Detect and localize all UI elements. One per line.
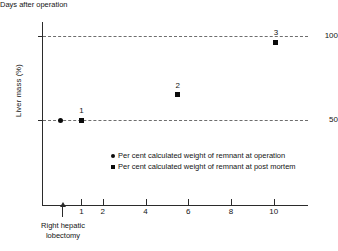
y-axis-title: Liver mass (%)	[14, 31, 23, 151]
operation-annotation: Right hepatic lobectomy	[18, 221, 108, 241]
y-tick-label-100: 100	[304, 31, 338, 40]
chart-legend: Per cent calculated weight of remnant at…	[108, 150, 296, 172]
data-point-label-1: 1	[71, 106, 91, 115]
legend-marker-square-icon	[108, 165, 118, 169]
operation-annotation-line1: Right hepatic	[18, 221, 108, 231]
x-tick-8	[231, 199, 232, 205]
data-point-label-3: 3	[266, 28, 286, 37]
data-point-1	[79, 118, 84, 123]
x-tick-label-2: 2	[91, 207, 115, 216]
x-tick-label-6: 6	[176, 207, 200, 216]
x-tick-10	[274, 199, 275, 205]
x-tick-label-10: 10	[262, 207, 286, 216]
data-point-label-2: 2	[168, 81, 188, 90]
legend-item-1: Per cent calculated weight of remnant at…	[108, 161, 296, 172]
x-tick-label-8: 8	[219, 207, 243, 216]
legend-label-1: Per cent calculated weight of remnant at…	[118, 162, 296, 171]
x-tick-1	[81, 199, 82, 205]
x-axis-line	[42, 205, 308, 206]
operation-annotation-line2: lobectomy	[18, 231, 108, 241]
x-axis-title: Days after operation	[0, 0, 140, 9]
data-point-2	[175, 92, 180, 97]
x-tick-4	[146, 199, 147, 205]
operation-arrow-icon	[62, 206, 63, 217]
liver-mass-chart: Liver mass (%) 50100 1246810 123 Right h…	[0, 0, 338, 251]
legend-swatch	[111, 154, 115, 158]
y-tick-label-50: 50	[304, 115, 338, 124]
y-tick-50	[38, 120, 43, 121]
y-axis-line	[42, 22, 43, 206]
y-tick-100	[38, 36, 43, 37]
data-point-3	[273, 40, 278, 45]
data-point-0-0	[58, 118, 63, 123]
x-tick-6	[188, 199, 189, 205]
legend-swatch	[111, 165, 115, 169]
x-tick-label-4: 4	[134, 207, 158, 216]
legend-label-0: Per cent calculated weight of remnant at…	[118, 151, 285, 160]
legend-marker-circle-icon	[108, 154, 118, 158]
legend-item-0: Per cent calculated weight of remnant at…	[108, 150, 296, 161]
x-tick-2	[103, 199, 104, 205]
